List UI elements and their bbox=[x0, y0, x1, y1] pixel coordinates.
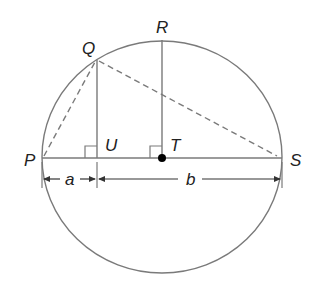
geometry-diagram: P Q R S T U a b bbox=[0, 0, 311, 284]
dashed-segment-PQ bbox=[44, 62, 95, 156]
label-T: T bbox=[170, 136, 182, 155]
label-S: S bbox=[290, 151, 302, 170]
arrowhead-icon bbox=[89, 176, 96, 182]
label-U: U bbox=[105, 136, 118, 155]
dashed-segment-QS bbox=[99, 61, 277, 156]
label-Q: Q bbox=[82, 39, 95, 58]
label-b: b bbox=[186, 170, 195, 189]
right-angle-mark-U bbox=[85, 146, 97, 158]
center-point-T bbox=[158, 154, 166, 162]
label-P: P bbox=[24, 151, 36, 170]
label-a: a bbox=[65, 170, 74, 189]
label-R: R bbox=[156, 18, 168, 37]
arrowhead-icon bbox=[98, 176, 105, 182]
